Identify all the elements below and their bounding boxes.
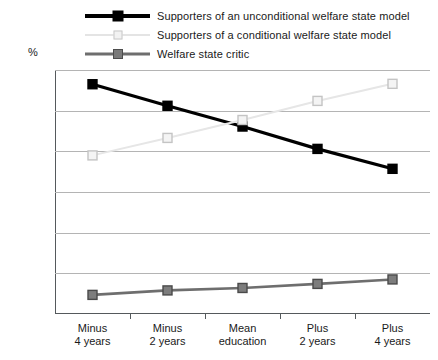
data-point-marker (88, 290, 97, 299)
data-point-marker (88, 151, 97, 160)
data-point-marker (313, 279, 322, 288)
legend-key-conditional (85, 25, 150, 44)
data-point-marker (238, 283, 247, 292)
data-point-marker (388, 164, 397, 173)
x-tick-line2: 2 years (149, 335, 185, 347)
data-point-marker (388, 79, 397, 88)
chart-figure: Supporters of an unconditional welfare s… (0, 0, 438, 360)
series-plot (55, 70, 430, 314)
data-point-marker (163, 133, 172, 142)
legend-item-critic: Welfare state critic (85, 44, 435, 63)
legend-marker-square-icon (112, 10, 123, 21)
x-tick-line2: 4 years (374, 335, 410, 347)
plot-area: 00.100.200.300.400.500.60 Minus4 yearsMi… (55, 70, 430, 314)
x-axis-tick (205, 314, 206, 319)
legend-item-conditional: Supporters of a conditional welfare stat… (85, 25, 435, 44)
legend-marker-square-icon (113, 30, 122, 39)
data-point-marker (163, 101, 172, 110)
x-axis-tick (280, 314, 281, 319)
y-axis-unit-label: % (28, 46, 38, 58)
x-tick-line2: 4 years (74, 335, 110, 347)
legend-label-conditional: Supporters of a conditional welfare stat… (150, 29, 391, 41)
x-axis-tick-label: Plus4 years (347, 322, 438, 348)
legend-key-critic (85, 44, 150, 63)
series-2 (88, 79, 397, 160)
x-tick-line2: 2 years (299, 335, 335, 347)
x-tick-line1: Plus (382, 322, 403, 334)
x-axis-tick (355, 314, 356, 319)
legend-label-critic: Welfare state critic (150, 48, 249, 60)
x-tick-line1: Minus (78, 322, 107, 334)
x-tick-line2: education (219, 335, 267, 347)
x-axis-tick (130, 314, 131, 319)
data-point-marker (388, 275, 397, 284)
x-tick-line1: Mean (229, 322, 257, 334)
series-3 (88, 275, 397, 299)
data-point-marker (313, 96, 322, 105)
data-point-marker (313, 144, 322, 153)
data-point-marker (88, 80, 97, 89)
legend-item-unconditional: Supporters of an unconditional welfare s… (85, 6, 435, 25)
data-point-marker (163, 286, 172, 295)
legend-marker-square-icon (113, 49, 123, 59)
legend-key-unconditional (85, 6, 150, 25)
data-point-marker (238, 116, 247, 125)
chart-legend: Supporters of an unconditional welfare s… (85, 6, 435, 63)
x-tick-line1: Plus (307, 322, 328, 334)
x-tick-line1: Minus (153, 322, 182, 334)
legend-label-unconditional: Supporters of an unconditional welfare s… (150, 10, 410, 22)
